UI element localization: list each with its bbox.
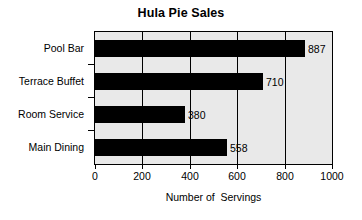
value-axis-labels: 02004006008001000 bbox=[94, 170, 333, 184]
bar-row: 887 bbox=[95, 40, 332, 57]
category-axis-labels: Pool BarTerrace BuffetRoom ServiceMain D… bbox=[0, 31, 90, 163]
category-label: Main Dining bbox=[29, 141, 84, 153]
bar bbox=[95, 106, 185, 123]
value-tick-label: 400 bbox=[181, 170, 199, 182]
value-axis-ticks bbox=[94, 164, 333, 169]
bar-value-label: 380 bbox=[185, 109, 206, 121]
value-tick-label: 600 bbox=[228, 170, 246, 182]
value-tick-label: 200 bbox=[133, 170, 151, 182]
x-axis-title: Number of Servings bbox=[94, 191, 333, 203]
chart-title: Hula Pie Sales bbox=[0, 6, 362, 20]
value-tick bbox=[95, 164, 96, 169]
bar-row: 558 bbox=[95, 139, 332, 156]
bar-value-label: 887 bbox=[305, 43, 326, 55]
category-axis-ticks bbox=[88, 31, 94, 163]
category-label: Terrace Buffet bbox=[19, 75, 84, 87]
value-tick bbox=[237, 164, 238, 169]
value-tick-label: 0 bbox=[92, 170, 98, 182]
category-tick bbox=[88, 97, 94, 98]
bar-value-label: 710 bbox=[263, 76, 284, 88]
category-tick bbox=[88, 64, 94, 65]
bars-layer: 887710380558 bbox=[95, 32, 332, 164]
bar bbox=[95, 73, 263, 90]
value-tick bbox=[332, 164, 333, 169]
bar bbox=[95, 139, 227, 156]
bar bbox=[95, 40, 305, 57]
plot-area: 887710380558 bbox=[94, 31, 333, 165]
bar-value-label: 558 bbox=[227, 142, 248, 154]
bar-row: 380 bbox=[95, 106, 332, 123]
category-label: Room Service bbox=[18, 108, 84, 120]
value-tick-label: 1000 bbox=[320, 170, 343, 182]
value-tick bbox=[142, 164, 143, 169]
value-tick bbox=[190, 164, 191, 169]
value-tick bbox=[285, 164, 286, 169]
bar-row: 710 bbox=[95, 73, 332, 90]
category-label: Pool Bar bbox=[44, 42, 84, 54]
bar-chart: Hula Pie Sales 887710380558 Pool BarTerr… bbox=[0, 0, 362, 220]
value-tick-label: 800 bbox=[276, 170, 294, 182]
category-tick bbox=[88, 130, 94, 131]
